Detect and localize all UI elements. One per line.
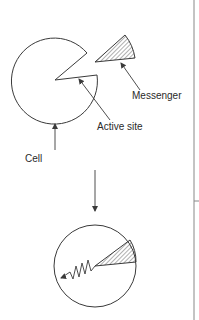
messenger-shape (95, 35, 135, 62)
active-site-pointer-arrow (79, 79, 110, 120)
messenger-pointer-arrow (121, 63, 140, 90)
bound-messenger-shape (95, 240, 136, 266)
signal-squiggle-icon (64, 260, 95, 279)
messenger-label: Messenger (132, 90, 181, 101)
cell-shape (11, 38, 97, 124)
cell-label: Cell (25, 153, 42, 164)
signal-arrowhead-icon (61, 276, 66, 278)
active-site-label: Active site (97, 121, 143, 132)
